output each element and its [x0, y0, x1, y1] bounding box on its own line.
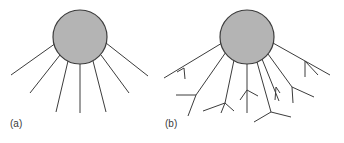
panel-a-diagram — [11, 10, 148, 113]
root-line — [254, 112, 271, 122]
root-line — [30, 55, 60, 93]
root-line — [275, 87, 276, 100]
root-line — [164, 43, 222, 78]
central-circle — [53, 10, 107, 64]
root-line — [247, 90, 258, 96]
root-line — [203, 103, 225, 111]
root-line — [305, 61, 318, 75]
root-line — [276, 87, 280, 93]
root-line — [292, 87, 314, 97]
root-line — [188, 95, 196, 116]
root-line — [225, 103, 234, 111]
central-circle — [220, 10, 274, 64]
root-line — [101, 55, 129, 93]
root-line — [11, 43, 56, 75]
root-line — [271, 112, 291, 117]
root-line — [93, 61, 106, 112]
root-line — [184, 68, 185, 79]
root-line — [292, 87, 293, 103]
root-line — [225, 60, 234, 103]
panel-b-label: (b) — [165, 118, 177, 129]
root-line — [273, 43, 330, 75]
root-line — [56, 61, 68, 112]
panel-b-diagram — [164, 10, 330, 122]
panel-a-label: (a) — [10, 118, 22, 129]
root-line — [196, 52, 226, 95]
root-line — [240, 90, 247, 100]
root-line — [257, 62, 271, 112]
